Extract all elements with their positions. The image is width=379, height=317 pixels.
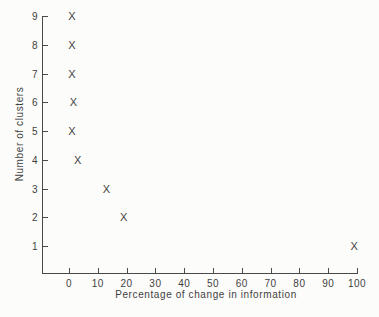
x-tick-10 (98, 268, 99, 273)
y-tick-label-9: 9 (32, 11, 38, 22)
data-point-x1-y5: X (68, 126, 75, 137)
x-tick-label-90: 90 (322, 278, 334, 289)
x-tick-label-70: 70 (265, 278, 277, 289)
data-point-x99-y1: X (350, 241, 357, 252)
x-tick-50 (213, 268, 214, 273)
y-tick-3 (43, 189, 48, 190)
x-tick-label-60: 60 (236, 278, 248, 289)
x-tick-40 (184, 268, 185, 273)
x-tick-90 (328, 268, 329, 273)
scatter-plot-figure: 0102030405060708090100123456789XXXXXXXXX… (0, 0, 379, 317)
x-tick-label-100: 100 (348, 278, 366, 289)
y-tick-7 (43, 74, 48, 75)
data-point-x1.5-y6: X (70, 97, 77, 108)
y-tick-label-7: 7 (32, 68, 38, 79)
x-tick-label-0: 0 (66, 278, 72, 289)
x-tick-30 (155, 268, 156, 273)
x-tick-label-80: 80 (293, 278, 305, 289)
x-axis-title: Percentage of change in information (115, 289, 297, 300)
x-tick-label-50: 50 (207, 278, 219, 289)
y-tick-5 (43, 131, 48, 132)
y-axis-title: Number of clusters (14, 87, 25, 182)
x-tick-60 (242, 268, 243, 273)
y-tick-1 (43, 246, 48, 247)
x-tick-label-10: 10 (92, 278, 104, 289)
y-tick-8 (43, 45, 48, 46)
y-tick-label-6: 6 (32, 97, 38, 108)
data-point-x3-y4: X (74, 154, 81, 165)
y-tick-4 (43, 160, 48, 161)
y-tick-2 (43, 217, 48, 218)
data-point-x1-y8: X (68, 39, 75, 50)
x-axis-line (42, 273, 358, 274)
data-point-x1-y7: X (68, 68, 75, 79)
y-tick-9 (43, 16, 48, 17)
y-tick-label-2: 2 (32, 212, 38, 223)
x-tick-70 (271, 268, 272, 273)
y-tick-label-1: 1 (32, 241, 38, 252)
data-point-x1-y9: X (68, 11, 75, 22)
x-tick-80 (299, 268, 300, 273)
x-tick-0 (69, 268, 70, 273)
data-point-x19-y2: X (120, 212, 127, 223)
x-tick-label-40: 40 (178, 278, 190, 289)
y-tick-label-8: 8 (32, 39, 38, 50)
y-tick-6 (43, 102, 48, 103)
x-tick-100 (357, 268, 358, 273)
y-axis-line (42, 16, 43, 273)
y-tick-label-3: 3 (32, 183, 38, 194)
data-point-x13-y3: X (103, 183, 110, 194)
x-tick-label-30: 30 (149, 278, 161, 289)
y-tick-label-5: 5 (32, 126, 38, 137)
y-tick-label-4: 4 (32, 154, 38, 165)
x-tick-20 (127, 268, 128, 273)
x-tick-label-20: 20 (121, 278, 133, 289)
